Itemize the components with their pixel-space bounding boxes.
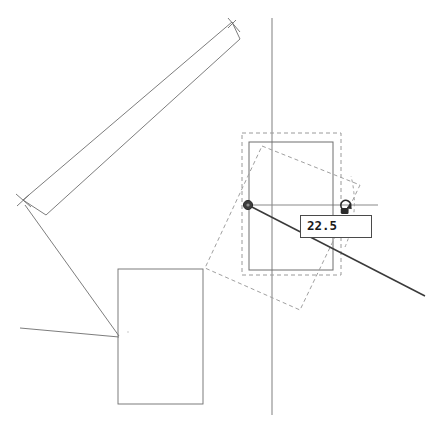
drawing-surface[interactable]	[0, 0, 448, 434]
rotate-cursor-glyph	[341, 200, 352, 213]
angle-readout-value: 22.5	[307, 220, 337, 233]
bottom-rectangle-center-mark	[127, 331, 128, 332]
diagonal-bar-group	[16, 18, 240, 215]
leader-lines-group	[20, 205, 119, 337]
bar-tick-upper-right	[228, 18, 240, 32]
diagonal-bar-outline	[23, 22, 240, 215]
cad-canvas[interactable]: 22.5	[0, 0, 448, 434]
rotation-pivot-inner-dot	[246, 203, 249, 206]
selected-rectangle[interactable]	[249, 142, 333, 270]
bottom-rectangle[interactable]	[118, 269, 203, 404]
selection-bounding-box[interactable]	[242, 133, 341, 275]
leader-line-from-bar	[25, 205, 119, 336]
leader-line-horizontal	[20, 328, 119, 337]
rotate-cursor-icon	[339, 196, 363, 220]
